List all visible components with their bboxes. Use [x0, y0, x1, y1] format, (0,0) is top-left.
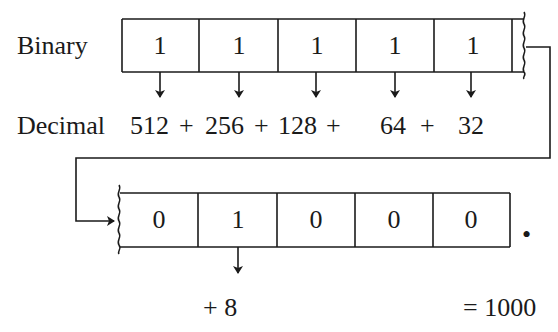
decimal-term-256: 256 — [205, 113, 244, 139]
binary-point: • — [522, 222, 531, 248]
top-bit-3: 1 — [297, 33, 337, 59]
top-break-edge — [523, 12, 525, 79]
binary-to-decimal-diagram: Binary Decimal 1 1 1 1 1 512 + 256 + 128… — [0, 0, 558, 332]
plus-sign: + — [326, 113, 341, 139]
top-bit-2: 1 — [219, 33, 259, 59]
decimal-term-512: 512 — [130, 113, 169, 139]
bottom-bit-3: 0 — [296, 207, 336, 233]
binary-label: Binary — [17, 33, 88, 59]
plus-sign: + — [420, 113, 435, 139]
result-value: = 1000 — [463, 295, 536, 321]
plus-sign: + — [179, 113, 194, 139]
top-arrows — [160, 72, 471, 97]
top-bit-4: 1 — [375, 33, 415, 59]
top-bit-1: 1 — [140, 33, 180, 59]
bottom-bit-5: 0 — [451, 207, 491, 233]
decimal-term-64: 64 — [380, 113, 406, 139]
bottom-bit-4: 0 — [374, 207, 414, 233]
bottom-bit-2: 1 — [218, 207, 258, 233]
decimal-term-32: 32 — [458, 113, 484, 139]
top-bit-5: 1 — [453, 33, 493, 59]
decimal-term-8: + 8 — [203, 295, 237, 321]
decimal-term-128: 128 — [278, 113, 317, 139]
decimal-label: Decimal — [17, 113, 105, 139]
plus-sign: + — [254, 113, 269, 139]
bottom-bit-1: 0 — [139, 207, 179, 233]
bottom-break-edge — [118, 185, 120, 254]
